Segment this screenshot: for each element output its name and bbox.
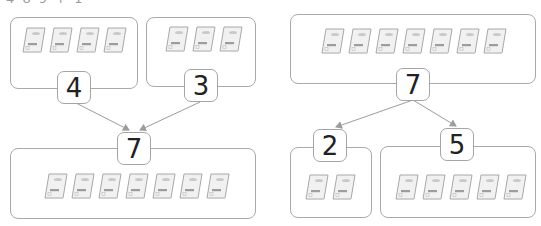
ticket-icon <box>422 174 446 200</box>
ticket-group-4 <box>22 27 127 53</box>
number-box-4: 4 <box>57 71 91 104</box>
ticket-group-7 <box>321 28 507 54</box>
ticket-icon <box>321 28 345 54</box>
ticket-icon <box>483 28 507 54</box>
ticket-icon <box>152 173 176 199</box>
ticket-icon <box>305 174 329 200</box>
number-box-7-sum: 7 <box>117 132 151 165</box>
clipped-header-text: 4 8 9 + 1 <box>6 0 85 6</box>
ticket-icon <box>402 28 426 54</box>
arrow-4-to-7 <box>76 103 129 130</box>
arrow-3-to-7 <box>140 102 200 130</box>
number-box-5: 5 <box>440 128 474 161</box>
ticket-icon <box>449 174 473 200</box>
ticket-icon <box>476 174 500 200</box>
ticket-icon <box>206 173 230 199</box>
ticket-icon <box>103 27 127 53</box>
number-box-2: 2 <box>313 129 347 162</box>
ticket-icon <box>179 173 203 199</box>
number-box-3: 3 <box>184 69 218 102</box>
ticket-icon <box>503 174 527 200</box>
ticket-icon <box>395 174 419 200</box>
arrow-7-to-2 <box>336 100 413 127</box>
ticket-group-3 <box>165 26 243 52</box>
ticket-icon <box>332 174 356 200</box>
ticket-group-2 <box>305 174 356 200</box>
ticket-icon <box>76 27 100 53</box>
ticket-icon <box>192 26 216 52</box>
ticket-icon <box>456 28 480 54</box>
number-box-7-whole: 7 <box>396 68 430 101</box>
ticket-icon <box>429 28 453 54</box>
ticket-icon <box>49 27 73 53</box>
ticket-icon <box>98 173 122 199</box>
ticket-group-5 <box>395 174 527 200</box>
ticket-icon <box>71 173 95 199</box>
ticket-group-7 <box>44 173 230 199</box>
ticket-icon <box>348 28 372 54</box>
ticket-icon <box>44 173 68 199</box>
arrow-7-to-5 <box>413 100 456 126</box>
ticket-icon <box>375 28 399 54</box>
ticket-icon <box>165 26 189 52</box>
ticket-icon <box>125 173 149 199</box>
ticket-icon <box>219 26 243 52</box>
ticket-icon <box>22 27 46 53</box>
